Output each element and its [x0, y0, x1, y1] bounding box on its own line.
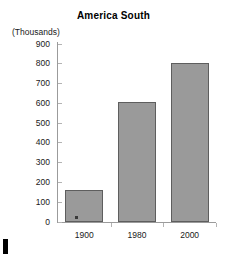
y-axis-tick-label: 0: [22, 217, 50, 228]
y-axis-tick-label: 400: [22, 137, 50, 148]
y-axis-line: [57, 42, 58, 223]
y-axis-tick-label: 500: [22, 118, 50, 129]
bar-1900: [65, 190, 103, 222]
x-axis-tick-mark: [111, 223, 112, 227]
chart-container: America South (Thousands) 90080070060050…: [0, 0, 227, 257]
y-axis-tick-mark: [58, 222, 62, 223]
y-axis-tick-label: 200: [22, 177, 50, 188]
x-axis-label: 1980: [115, 230, 159, 240]
bar-2000: [171, 63, 209, 222]
x-axis-label: 2000: [168, 230, 212, 240]
y-axis-tick-mark: [58, 142, 62, 143]
y-axis-tick-label: 100: [22, 197, 50, 208]
y-axis-tick-label: 600: [22, 98, 50, 109]
y-axis-tick-label: 300: [22, 157, 50, 168]
x-axis-tick-mark: [216, 223, 217, 227]
y-axis-tick-mark: [58, 63, 62, 64]
plot-area: 9008007006005004003002001000 19001980200…: [0, 0, 227, 257]
x-axis-line: [57, 222, 216, 223]
y-axis-tick-mark: [58, 182, 62, 183]
y-axis-tick-label: 800: [22, 58, 50, 69]
y-axis-tick-label: 900: [22, 39, 50, 50]
bar-1980: [118, 102, 156, 222]
y-axis-tick-label: 700: [22, 78, 50, 89]
y-axis-tick-mark: [58, 83, 62, 84]
y-axis-tick-mark: [58, 202, 62, 203]
y-axis-tick-mark: [58, 103, 62, 104]
y-axis-tick-mark: [58, 123, 62, 124]
x-axis-tick-mark: [163, 223, 164, 227]
x-axis-label: 1900: [62, 230, 106, 240]
scan-speck-icon: [75, 216, 78, 219]
scan-edge-mark-icon: [3, 239, 8, 254]
y-axis-tick-mark: [58, 162, 62, 163]
y-axis-tick-mark: [58, 44, 62, 45]
